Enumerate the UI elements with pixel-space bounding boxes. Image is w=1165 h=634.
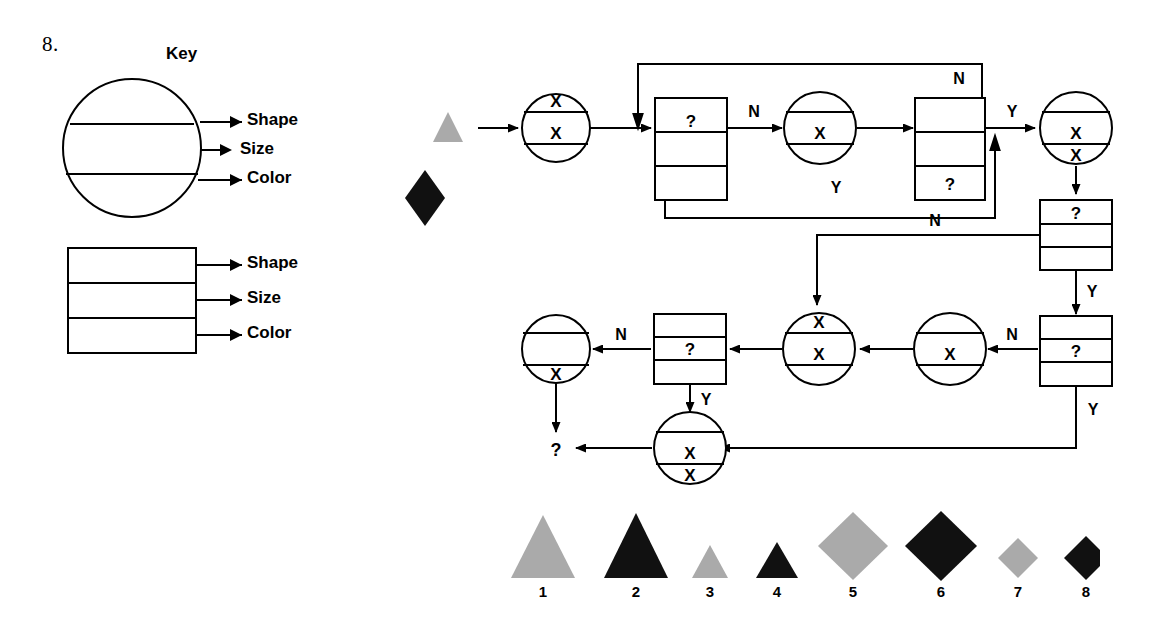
answer-shape-8[interactable] — [1064, 536, 1100, 580]
edge-label-b2-no: N — [953, 70, 965, 87]
edge-label-b1-yes: Y — [831, 179, 842, 196]
c3-band-mid: X — [1070, 124, 1082, 143]
answer-number-8: 8 — [1066, 583, 1106, 600]
answer-number-6: 6 — [921, 583, 961, 600]
answer-number-1: 1 — [523, 583, 563, 600]
b5-band-mid: ? — [685, 340, 695, 359]
edge-b1-yes-arrowhead — [991, 136, 1000, 150]
edge-label-b1-no: N — [748, 103, 760, 120]
edge-label-b4-no: N — [1006, 326, 1018, 343]
c7-band-bot: X — [684, 466, 696, 485]
key-diagram — [60, 78, 360, 368]
answer-number-2: 2 — [616, 583, 656, 600]
input-diamond-icon — [405, 170, 445, 226]
c5-band-mid: X — [813, 345, 825, 364]
answer-shape-3[interactable] — [692, 545, 728, 578]
c1-band-top: X — [550, 92, 562, 111]
b4-band-mid: ? — [1071, 342, 1081, 361]
edge-n-loop-arrowhead — [634, 114, 643, 128]
input-triangle-icon — [433, 112, 463, 142]
c6-band-bot: X — [550, 365, 562, 384]
edge-label-b3-no: N — [929, 212, 941, 229]
key-arrowheads — [220, 116, 242, 341]
b1-band-mid: ? — [686, 112, 696, 131]
c3-band-bot: X — [1070, 146, 1082, 165]
key-circle-outline — [63, 79, 201, 217]
flowchart-diagram: X X ? X ? X X ? ? X X X ? X X X N Y N Y … — [390, 50, 1165, 500]
key-box-label-size: Size — [247, 288, 281, 308]
key-circle-label-shape: Shape — [247, 110, 298, 130]
edge-label-b3-yes: Y — [1087, 283, 1098, 300]
worksheet-page: 8. Key Shape Size Co — [0, 0, 1165, 634]
answer-shape-6[interactable] — [905, 511, 977, 581]
question-number: 8. — [42, 32, 59, 57]
c5-band-top: X — [813, 313, 825, 332]
answer-shape-7[interactable] — [998, 538, 1038, 578]
answer-number-3: 3 — [690, 583, 730, 600]
answer-shape-4[interactable] — [756, 542, 798, 578]
key-title: Key — [166, 44, 197, 64]
key-box-outline — [68, 248, 196, 353]
c7-band-mid: X — [684, 444, 696, 463]
answer-shape-5[interactable] — [818, 512, 888, 580]
edge-label-b5-yes: Y — [701, 391, 712, 408]
answer-number-5: 5 — [833, 583, 873, 600]
key-box-label-color: Color — [247, 323, 291, 343]
key-box-label-shape: Shape — [247, 253, 298, 273]
key-circle-label-size: Size — [240, 139, 274, 159]
edge-label-b2-yes: Y — [1007, 103, 1018, 120]
c2-band-mid: X — [814, 124, 826, 143]
c1-band-mid: X — [550, 124, 562, 143]
edge-label-b5-no: N — [615, 326, 627, 343]
answer-number-4: 4 — [757, 583, 797, 600]
c4-band-mid: X — [944, 345, 956, 364]
edge-b3-no — [817, 235, 1040, 305]
b2-band-bot: ? — [945, 175, 955, 194]
output-question-mark: ? — [551, 440, 562, 460]
b3-band-top: ? — [1071, 204, 1081, 223]
answer-number-7: 7 — [998, 583, 1038, 600]
edge-b4-yes — [720, 385, 1076, 448]
key-circle-label-color: Color — [247, 168, 291, 188]
answer-shape-1[interactable] — [511, 515, 575, 578]
answer-shape-2[interactable] — [604, 513, 668, 578]
edge-label-b4-yes: Y — [1088, 401, 1099, 418]
